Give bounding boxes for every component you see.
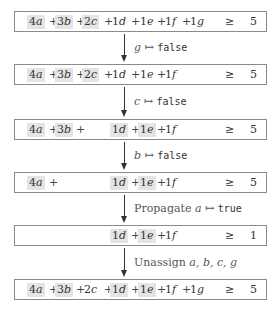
arrow-head: [121, 163, 127, 170]
arrow-shaft: [124, 195, 125, 217]
term-variable: e: [147, 229, 154, 242]
arrow-shaft: [124, 142, 125, 164]
relation-symbol: ≥: [225, 176, 234, 190]
step-variable: c: [134, 95, 140, 108]
term-variable: e: [147, 283, 154, 296]
term-coefficient: 4: [29, 68, 36, 81]
relation-symbol: ≥: [225, 68, 234, 82]
step-variable: a: [195, 202, 202, 215]
constraint-box: 4a+3b+2c+1d+1e+1f+1g≥5: [14, 11, 267, 32]
constraint-term: 1f: [163, 176, 178, 190]
term-variable: g: [197, 15, 204, 28]
term-coefficient: 1: [165, 123, 172, 136]
arrow-shaft: [124, 34, 125, 56]
term-coefficient: 3: [57, 68, 64, 81]
term-variable: c: [91, 68, 97, 81]
term-coefficient: 1: [112, 229, 119, 242]
constraint-term: 2c: [82, 68, 99, 82]
constraint-term: 4a: [27, 68, 45, 82]
right-hand-side: 5: [250, 176, 257, 190]
term-variable: d: [119, 15, 126, 28]
term-variable: f: [172, 176, 176, 189]
constraint-term: 1e: [138, 229, 156, 243]
constraint-term: 1f: [163, 15, 178, 29]
assigned-value: false: [157, 150, 187, 161]
step-label: c ↦ false: [134, 95, 187, 109]
constraint-term: 1e: [138, 176, 156, 190]
term-coefficient: 1: [140, 283, 147, 296]
term-coefficient: 1: [140, 68, 147, 81]
term-coefficient: 4: [29, 15, 36, 28]
arrow-shaft: [124, 248, 125, 271]
term-variable: d: [119, 283, 126, 296]
step-variable: b: [134, 149, 141, 162]
plus-sign: +: [76, 123, 85, 137]
term-variable: c: [91, 15, 97, 28]
step-variable: a, b, c, g: [189, 256, 237, 269]
constraint-term: 1d: [110, 176, 128, 190]
term-variable: a: [36, 283, 43, 296]
constraint-box: 4a+3b+2c+1d+1e+1f≥5: [14, 64, 267, 85]
arrow-head: [121, 110, 127, 117]
constraint-term: 1g: [188, 283, 206, 297]
constraint-term: 4a: [27, 176, 45, 190]
arrow-head: [121, 55, 127, 62]
relation-symbol: ≥: [225, 123, 234, 137]
right-hand-side: 5: [250, 283, 257, 297]
constraint-term: 1d: [110, 68, 128, 82]
relation-symbol: ≥: [225, 15, 234, 29]
relation-symbol: ≥: [225, 229, 234, 243]
term-variable: d: [119, 68, 126, 81]
term-variable: d: [119, 229, 126, 242]
term-coefficient: 1: [140, 15, 147, 28]
down-arrow-icon: [124, 87, 126, 117]
constraint-term: 4a: [27, 283, 45, 297]
constraint-term: 1d: [110, 15, 128, 29]
constraint-term: 1e: [138, 15, 156, 29]
term-variable: a: [36, 68, 43, 81]
relation-symbol: ≥: [225, 283, 234, 297]
term-coefficient: 4: [29, 283, 36, 296]
constraint-term: 3b: [55, 283, 73, 297]
plus-sign: +: [49, 176, 58, 190]
term-coefficient: 1: [112, 176, 119, 189]
term-coefficient: 1: [112, 68, 119, 81]
mapsto-symbol: ↦: [144, 95, 153, 108]
constraint-term: 4a: [27, 15, 45, 29]
step-action: Propagate: [134, 202, 191, 215]
down-arrow-icon: [124, 248, 126, 277]
constraint-term: 1d: [110, 123, 128, 137]
constraint-term: 1g: [188, 15, 206, 29]
term-coefficient: 1: [140, 176, 147, 189]
term-variable: d: [119, 123, 126, 136]
term-variable: b: [64, 68, 71, 81]
term-coefficient: 1: [165, 176, 172, 189]
term-variable: e: [147, 15, 154, 28]
constraint-term: 1d: [110, 283, 128, 297]
constraint-term: 1f: [163, 283, 178, 297]
constraint-term: 1f: [163, 123, 178, 137]
term-coefficient: 2: [84, 15, 91, 28]
constraint-box: 4a+3b+2c+1d+1e+1f+1g≥5: [14, 279, 267, 300]
term-coefficient: 2: [84, 283, 91, 296]
constraint-term: 2c: [82, 283, 99, 297]
term-variable: c: [91, 283, 97, 296]
constraint-term: 1e: [138, 68, 156, 82]
down-arrow-icon: [124, 195, 126, 223]
arrow-head: [121, 270, 127, 277]
term-variable: f: [172, 15, 176, 28]
step-label: Propagate a ↦ true: [134, 202, 242, 216]
term-variable: e: [147, 68, 154, 81]
term-coefficient: 1: [165, 229, 172, 242]
term-coefficient: 2: [84, 68, 91, 81]
term-coefficient: 3: [57, 283, 64, 296]
arrow-shaft: [124, 87, 125, 111]
step-label: b ↦ false: [134, 149, 187, 163]
term-coefficient: 3: [57, 123, 64, 136]
term-coefficient: 1: [112, 283, 119, 296]
right-hand-side: 5: [250, 123, 257, 137]
term-variable: f: [172, 68, 176, 81]
right-hand-side: 5: [250, 68, 257, 82]
arrow-head: [121, 216, 127, 223]
assigned-value: false: [156, 96, 186, 107]
